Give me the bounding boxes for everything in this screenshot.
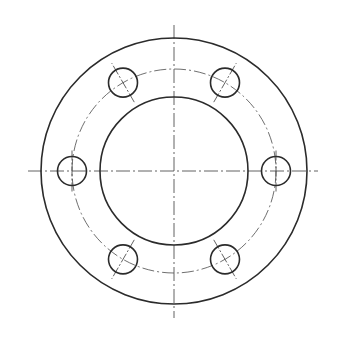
hole-radial-centerline xyxy=(112,63,135,102)
main-centerlines xyxy=(28,25,318,318)
hole-radial-centerline xyxy=(214,63,237,102)
bolt-hole xyxy=(109,240,138,279)
hole-radial-centerline xyxy=(214,240,237,279)
bolt-hole xyxy=(109,63,138,102)
bolt-hole xyxy=(211,63,240,102)
hole-radial-centerline xyxy=(112,240,135,279)
bolt-hole xyxy=(211,240,240,279)
flange-drawing xyxy=(0,0,337,344)
